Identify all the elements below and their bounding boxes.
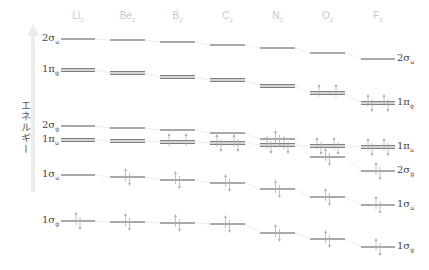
orbital-label: 1πg	[42, 63, 59, 76]
energy-axis-label: エネルギー	[20, 100, 32, 155]
orbital-label: 1πu	[42, 133, 59, 146]
orbital-label: 1πg	[397, 96, 414, 109]
orbital-label: 1σu	[42, 168, 59, 181]
molecule-header: O2	[308, 10, 348, 23]
orbital-label: 2σu	[42, 32, 59, 45]
orbital-label: 2σg	[397, 164, 414, 177]
orbital-label: 1σg	[42, 214, 59, 227]
molecule-header: N2	[258, 10, 298, 23]
molecule-header: Be2	[108, 10, 148, 23]
orbital-label: 2σg	[42, 119, 59, 132]
mo-energy-diagram	[0, 0, 429, 270]
orbital-label: 1πu	[397, 140, 414, 153]
orbital-label: 1σu	[397, 198, 414, 211]
molecule-header: C2	[208, 10, 248, 23]
orbital-label: 2σu	[397, 52, 414, 65]
electron-arrows	[75, 84, 390, 256]
molecule-header: F2	[358, 10, 398, 23]
orbital-label: 1σg	[397, 240, 414, 253]
molecule-header: Li2	[58, 10, 98, 23]
orbital-levels	[61, 39, 395, 247]
molecule-header: B2	[158, 10, 198, 23]
